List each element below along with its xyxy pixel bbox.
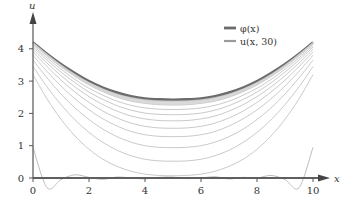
x-tick-label: 6 [198,185,204,196]
x-tick-label: 10 [307,185,320,196]
y-tick-label: 4 [18,43,24,54]
legend-label: u(x, 30) [240,36,277,47]
x-ticks: 0246810 [30,178,320,196]
y-tick-label: 3 [18,76,24,87]
x-tick-label: 0 [30,185,36,196]
y-axis-label: u [29,0,35,11]
legend-label: φ(x) [240,23,259,34]
x-tick-label: 8 [254,185,260,196]
transient-curve [33,52,313,128]
transient-curve [33,67,313,162]
chart: 0246810 01234 x u φ(x)u(x, 30) [0,0,353,205]
x-axis-arrow-icon [318,175,330,182]
y-tick-label: 1 [18,140,24,151]
axes: 0246810 01234 x u [18,0,340,196]
y-axis-arrow-icon [30,12,37,24]
transient-curve [33,49,313,120]
x-tick-label: 4 [142,185,148,196]
transient-curve [33,75,313,176]
x-axis-label: x [334,173,340,184]
legend: φ(x)u(x, 30) [224,23,277,47]
y-tick-label: 2 [18,108,24,119]
y-tick-label: 0 [18,173,24,184]
x-tick-label: 2 [86,185,92,196]
initial-curve [33,147,313,189]
curve-family [33,42,318,189]
y-ticks: 01234 [18,43,33,183]
transient-curve [33,55,313,136]
phi-curve [33,42,313,99]
